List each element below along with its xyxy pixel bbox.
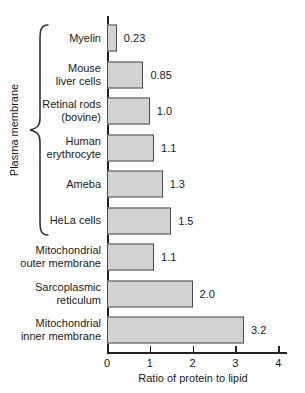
- x-tick-label: 4: [268, 357, 288, 370]
- bar: [107, 207, 171, 234]
- plasma-membrane-label: Plasma membrane: [8, 84, 21, 176]
- bar-track: 0.85: [107, 57, 305, 94]
- x-axis-line: [107, 352, 287, 354]
- x-tick: [150, 346, 152, 353]
- value-label: 1.1: [161, 251, 176, 264]
- bar: [107, 25, 117, 52]
- bar-track: 3.2: [107, 312, 305, 349]
- bar: [107, 98, 150, 125]
- bar-track: 1.5: [107, 203, 305, 240]
- category-label: Sarcoplasmicreticulum: [0, 281, 107, 307]
- bar-track: 2.0: [107, 276, 305, 313]
- x-tick-label: 2: [183, 357, 203, 370]
- x-axis-title: Ratio of protein to lipid: [107, 372, 279, 385]
- category-label: Myelin: [0, 32, 107, 45]
- x-tick: [107, 346, 109, 353]
- value-label: 1.3: [170, 178, 185, 191]
- bar-track: 1.1: [107, 130, 305, 167]
- bar-track: 1.0: [107, 93, 305, 130]
- value-label: 0.23: [124, 32, 145, 45]
- value-label: 2.0: [200, 287, 215, 300]
- bar-track: 1.3: [107, 166, 305, 203]
- bar: [107, 244, 154, 271]
- bar-row: Sarcoplasmicreticulum2.0: [0, 276, 305, 313]
- x-tick: [193, 346, 195, 353]
- bar-row: Mitochondrialouter membrane1.1: [0, 239, 305, 276]
- bar: [107, 317, 244, 344]
- category-label: HeLa cells: [0, 214, 107, 227]
- x-tick: [278, 346, 280, 353]
- bar: [107, 134, 154, 161]
- bar-track: 0.23: [107, 20, 305, 57]
- x-tick-label: 0: [97, 357, 117, 370]
- bar-track: 1.1: [107, 239, 305, 276]
- category-label: Ameba: [0, 178, 107, 191]
- x-tick-label: 1: [140, 357, 160, 370]
- bar-row: Mitochondrialinner membrane3.2: [0, 312, 305, 349]
- value-label: 1.1: [161, 141, 176, 154]
- value-label: 1.5: [178, 214, 193, 227]
- value-label: 1.0: [157, 105, 172, 118]
- value-label: 3.2: [251, 324, 266, 337]
- value-label: 0.85: [150, 68, 171, 81]
- bar: [107, 171, 163, 198]
- category-label: Mitochondrialinner membrane: [0, 317, 107, 343]
- membrane-protein-lipid-chart: Myelin0.23Mouseliver cells0.85Retinal ro…: [0, 0, 305, 393]
- x-tick-label: 3: [225, 357, 245, 370]
- bar: [107, 280, 193, 307]
- category-label: Mitochondrialouter membrane: [0, 244, 107, 270]
- x-tick: [235, 346, 237, 353]
- bar: [107, 61, 143, 88]
- plasma-membrane-bracket: [27, 24, 51, 236]
